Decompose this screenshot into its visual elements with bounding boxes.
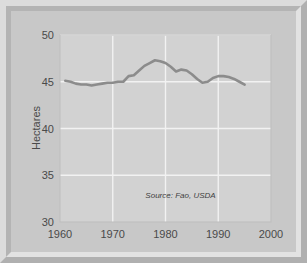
x-tick-label-1990: 1990 xyxy=(206,228,230,240)
x-tick-label-2000: 2000 xyxy=(259,228,283,240)
line-chart: 3035404550 19601970198019902000 Hectares… xyxy=(0,0,307,263)
x-axis-tick-labels: 19601970198019902000 xyxy=(48,228,283,240)
y-tick-label-40: 40 xyxy=(42,123,54,135)
y-axis-tick-labels: 3035404550 xyxy=(42,29,54,228)
y-tick-label-30: 30 xyxy=(42,216,54,228)
y-tick-label-50: 50 xyxy=(42,29,54,41)
y-axis-title: Hectares xyxy=(30,105,42,150)
chart-figure: 3035404550 19601970198019902000 Hectares… xyxy=(0,0,307,263)
y-tick-label-45: 45 xyxy=(42,76,54,88)
x-tick-label-1970: 1970 xyxy=(101,228,125,240)
source-annotation: Source: Fao, USDA xyxy=(145,191,215,200)
x-tick-label-1960: 1960 xyxy=(48,228,72,240)
x-tick-label-1980: 1980 xyxy=(153,228,177,240)
y-tick-label-35: 35 xyxy=(42,169,54,181)
